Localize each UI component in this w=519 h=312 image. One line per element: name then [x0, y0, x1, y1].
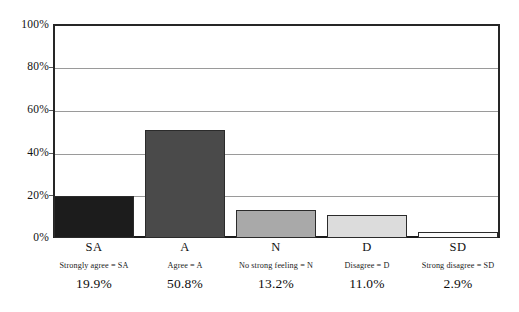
category-label-sd: SD [378, 240, 519, 255]
bar-n[interactable] [236, 210, 316, 238]
bar-d[interactable] [327, 215, 407, 238]
bar-chart: 100% 80% 60% 40% 20% 0% [0, 0, 519, 312]
bar-sd[interactable] [418, 232, 498, 238]
y-tick-label-100: 100% [5, 19, 49, 31]
bar-a[interactable] [145, 130, 225, 238]
bar-slot-sa [54, 24, 134, 238]
bar-slot-d [327, 24, 407, 238]
y-tick-label-40: 40% [5, 147, 49, 159]
bar-sa[interactable] [54, 196, 134, 238]
y-tick-label-60: 60% [5, 104, 49, 116]
category-description-sd: Strong disagree = SD [378, 261, 519, 271]
label-column-sd: SD Strong disagree = SD 2.9% [378, 240, 519, 292]
bar-slot-n [236, 24, 316, 238]
labels-layer: SA Strongly agree = SA 19.9% A Agree = A… [53, 240, 500, 310]
category-value-sd: 2.9% [378, 276, 519, 292]
bar-slot-a [145, 24, 225, 238]
bar-slot-sd [418, 24, 498, 238]
y-tick-label-80: 80% [5, 61, 49, 73]
y-tick-label-20: 20% [5, 190, 49, 202]
bars-layer [53, 24, 500, 238]
